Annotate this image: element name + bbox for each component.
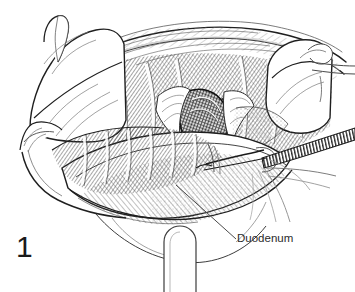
surgical-illustration	[0, 0, 355, 292]
annotation-label-duodenum: Duodenum	[237, 232, 293, 246]
figure-container: 1 Duodenum	[0, 0, 355, 292]
figure-number: 1	[16, 232, 33, 262]
retractor-blade-bottom	[164, 226, 196, 292]
